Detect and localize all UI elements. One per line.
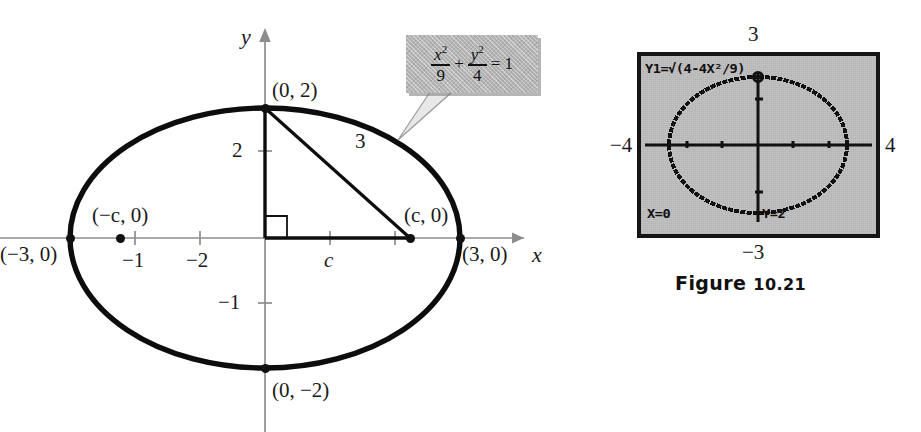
calculator-screen-bezel: Y1=√(4-4X²/9) X=0 Y=2 [637,52,880,238]
x-tick-label--1: −1 [122,250,144,271]
x-axis-label: x [532,244,542,266]
calc-cursor-x-readout: X=0 [647,206,670,221]
equation-callout: x2 9 + y2 4 = 1 [406,35,538,93]
callout-tail [398,92,452,140]
point-label-bottom-covertex: (0, −2) [272,380,329,401]
calc-window-ymin-label: −3 [742,240,764,265]
point-dot-top-covertex [261,104,270,113]
calc-window-xmin-label: −4 [610,133,632,158]
callout-equation: x2 9 + y2 4 = 1 [431,44,513,83]
point-label-top-covertex: (0, 2) [272,80,318,101]
y-tick-label--1: −1 [218,292,240,313]
point-dot-left-vertex [66,234,75,243]
fraction-x2-over-9: x2 9 [431,44,450,83]
point-dot-bottom-covertex [261,364,270,373]
ellipse-diagram: y x −2 −1 c 2 −1 (−3, 0) (3, 0) (0, 2) (… [0,0,570,432]
point-dot-left-focus [116,234,125,243]
point-label-right-focus: (c, 0) [404,205,448,226]
calc-cursor-y-readout: Y=2 [762,206,785,221]
x-tick-label--2: −2 [186,250,208,271]
y-axis-label: y [241,26,251,48]
y-tick-label-2: 2 [232,140,243,161]
figure-caption-word: Figure [675,272,746,294]
x-axis [0,233,524,244]
calculator-figure: 3 −3 −4 4 [600,0,921,432]
fraction-y2-over-4: y2 4 [468,44,487,83]
point-label-right-vertex: (3, 0) [462,244,508,265]
fraction-numerator-x2: x2 [431,44,450,64]
calc-window-xmax-label: 4 [885,133,896,158]
x-tick-label-c: c [324,250,333,271]
point-dot-right-focus [406,234,415,243]
figure-caption: Figure 10.21 [600,272,881,294]
point-label-left-vertex: (−3, 0) [0,244,57,265]
calculator-screen[interactable]: Y1=√(4-4X²/9) X=0 Y=2 [641,56,876,234]
right-angle-mark [265,216,287,238]
equation-rhs: 1 [504,54,513,74]
hypotenuse-length-label: 3 [355,131,366,152]
calc-function-line: Y1=√(4-4X²/9) [645,61,745,76]
calculator-plot-svg [641,56,876,234]
fraction-denominator-4: 4 [470,66,485,84]
calc-window-ymax-label: 3 [748,22,759,47]
equals-operator: = [491,54,501,74]
point-label-left-focus: (−c, 0) [92,205,148,226]
fraction-denominator-9: 9 [433,66,448,84]
fraction-numerator-y2: y2 [468,44,487,64]
figure-page: y x −2 −1 c 2 −1 (−3, 0) (3, 0) (0, 2) (… [0,0,921,432]
plus-operator: + [454,54,464,74]
figure-caption-number: 10.21 [753,275,806,294]
